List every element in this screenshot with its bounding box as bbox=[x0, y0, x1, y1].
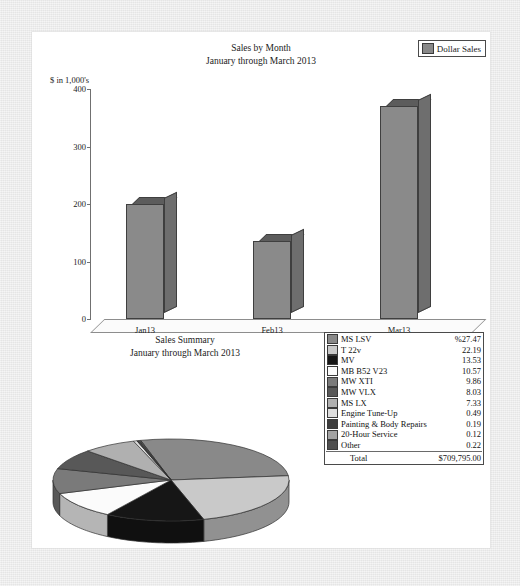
row-value: 22.19 bbox=[434, 345, 482, 356]
bar-jan13-face bbox=[126, 204, 164, 319]
summary-title-line1: Sales Summary bbox=[155, 335, 214, 345]
table-row[interactable]: MV13.53 bbox=[326, 355, 482, 366]
y-tick-label-100: 100 bbox=[60, 257, 86, 267]
bar-chart-title-line1: Sales by Month bbox=[231, 43, 291, 53]
table-total-row: Total$709,795.00 bbox=[326, 451, 482, 463]
y-tick-label-400: 400 bbox=[60, 84, 86, 94]
table-row[interactable]: MW VLX8.03 bbox=[326, 387, 482, 398]
row-label: Other bbox=[340, 440, 434, 451]
row-value: 0.49 bbox=[434, 408, 482, 419]
row-color-swatch-icon bbox=[326, 398, 340, 409]
total-label: Total bbox=[340, 451, 434, 463]
row-color-swatch-icon bbox=[326, 376, 340, 387]
table-row[interactable]: Painting & Body Repairs0.19 bbox=[326, 419, 482, 430]
bar-mar13-side bbox=[418, 94, 431, 313]
bar-chart-legend[interactable]: Dollar Sales bbox=[418, 40, 486, 57]
bar-chart-plot-area: 0 100 200 300 400 bbox=[90, 89, 472, 319]
total-value: $709,795.00 bbox=[434, 451, 482, 463]
table-row[interactable]: MS LSV%27.47 bbox=[326, 334, 482, 345]
row-label: Engine Tune-Up bbox=[340, 408, 434, 419]
row-label: MS LSV bbox=[340, 334, 434, 345]
row-color-swatch-icon bbox=[326, 366, 340, 377]
row-label: 20-Hour Service bbox=[340, 429, 434, 440]
bar-jan13[interactable] bbox=[126, 204, 164, 319]
row-value: 8.03 bbox=[434, 387, 482, 398]
row-label: MS LX bbox=[340, 398, 434, 409]
row-label: MV bbox=[340, 355, 434, 366]
summary-table-body: MS LSV%27.47T 22v22.19MV13.53MB B52 V231… bbox=[326, 334, 482, 463]
row-value: 10.57 bbox=[434, 366, 482, 377]
row-label: Painting & Body Repairs bbox=[340, 419, 434, 430]
row-value: 7.33 bbox=[434, 398, 482, 409]
bar-jan13-side bbox=[164, 192, 177, 313]
table-row[interactable]: MW XTI9.86 bbox=[326, 376, 482, 387]
pie-chart-region bbox=[50, 424, 320, 544]
y-tick-label-300: 300 bbox=[60, 142, 86, 152]
row-value: 0.19 bbox=[434, 419, 482, 430]
row-color-swatch-icon bbox=[326, 345, 340, 356]
row-value: 0.12 bbox=[434, 429, 482, 440]
table-row[interactable]: MS LX7.33 bbox=[326, 398, 482, 409]
row-label: MB B52 V23 bbox=[340, 366, 434, 377]
bar-mar13[interactable] bbox=[380, 106, 418, 319]
table-row[interactable]: MB B52 V2310.57 bbox=[326, 366, 482, 377]
bar-feb13-side bbox=[291, 229, 304, 313]
report-page: Sales by Month January through March 201… bbox=[32, 32, 490, 548]
pie-chart-3d[interactable] bbox=[50, 424, 320, 544]
legend-swatch-icon bbox=[422, 43, 434, 54]
table-row[interactable]: Engine Tune-Up0.49 bbox=[326, 408, 482, 419]
row-color-swatch-icon bbox=[326, 408, 340, 419]
summary-title-line2: January through March 2013 bbox=[50, 347, 320, 360]
row-value: 9.86 bbox=[434, 376, 482, 387]
bar-chart-region: Sales by Month January through March 201… bbox=[32, 32, 490, 332]
row-color-swatch-icon bbox=[326, 355, 340, 366]
row-value: %27.47 bbox=[434, 334, 482, 345]
row-label: MW VLX bbox=[340, 387, 434, 398]
y-tick-label-200: 200 bbox=[60, 199, 86, 209]
row-value: 0.22 bbox=[434, 440, 482, 451]
bar-series-dollar-sales bbox=[90, 89, 472, 319]
row-label: T 22v bbox=[340, 345, 434, 356]
row-color-swatch-icon bbox=[326, 387, 340, 398]
row-color-swatch-icon bbox=[326, 419, 340, 430]
y-tick-label-0: 0 bbox=[60, 314, 86, 324]
row-color-swatch-icon bbox=[326, 429, 340, 440]
row-color-swatch-icon bbox=[326, 334, 340, 345]
bar-mar13-face bbox=[380, 106, 418, 319]
total-spacer bbox=[326, 451, 340, 463]
row-color-swatch-icon bbox=[326, 440, 340, 451]
table-row[interactable]: T 22v22.19 bbox=[326, 345, 482, 356]
pie-top-group bbox=[53, 439, 289, 521]
bar-feb13[interactable] bbox=[253, 241, 291, 319]
legend-label: Dollar Sales bbox=[437, 44, 481, 54]
table-row[interactable]: Other0.22 bbox=[326, 440, 482, 451]
summary-legend-table[interactable]: MS LSV%27.47T 22v22.19MV13.53MB B52 V231… bbox=[324, 332, 484, 465]
row-label: MW XTI bbox=[340, 376, 434, 387]
bar-feb13-face bbox=[253, 241, 291, 319]
table-row[interactable]: 20-Hour Service0.12 bbox=[326, 429, 482, 440]
summary-title: Sales Summary January through March 2013 bbox=[50, 334, 320, 359]
row-value: 13.53 bbox=[434, 355, 482, 366]
